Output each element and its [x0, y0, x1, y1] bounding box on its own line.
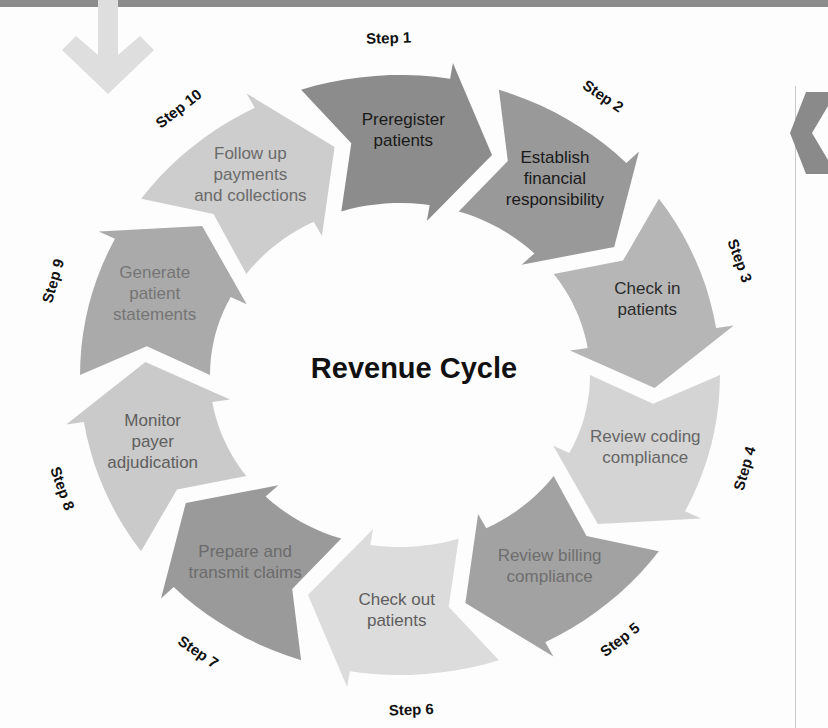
step-number-label-7: Step 7	[175, 632, 222, 671]
step-number-label-8: Step 8	[47, 464, 78, 512]
step-number-label-5: Step 5	[597, 619, 643, 660]
step-number-label-10: Step 10	[152, 85, 205, 131]
step-number-label-6: Step 6	[388, 700, 434, 718]
step-number-label-4: Step 4	[730, 444, 759, 493]
revenue-cycle-diagram: Step 1Step 2Step 3Step 4Step 5Step 6Step…	[0, 0, 828, 728]
center-title: Revenue Cycle	[311, 352, 517, 384]
down-arrow-icon	[62, 0, 154, 94]
step-number-label-9: Step 9	[38, 257, 67, 305]
step-number-label-1: Step 1	[366, 28, 412, 46]
page-canvas: Step 1Step 2Step 3Step 4Step 5Step 6Step…	[0, 0, 828, 728]
step-number-label-3: Step 3	[725, 237, 756, 285]
right-chevron-icon	[790, 92, 828, 174]
step-number-label-2: Step 2	[580, 76, 627, 115]
